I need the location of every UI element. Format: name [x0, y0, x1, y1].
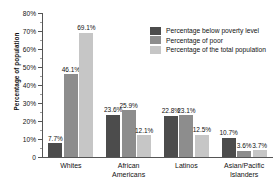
y-tick-40 — [38, 85, 42, 86]
bar[interactable] — [253, 150, 267, 157]
y-tick-10 — [38, 139, 42, 140]
bar[interactable] — [164, 116, 178, 157]
bar-value-label: 10.7% — [219, 129, 237, 136]
y-tick-minor — [40, 94, 42, 95]
bar[interactable] — [48, 143, 62, 157]
bar-value-label: 7.7% — [48, 135, 63, 142]
y-tick-minor — [40, 58, 42, 59]
y-tick-0 — [38, 157, 42, 158]
y-tick-minor — [40, 112, 42, 113]
bar-value-label: 25.9% — [119, 102, 137, 109]
bar-value-label: 69.1% — [77, 24, 95, 31]
bar[interactable] — [179, 115, 193, 157]
y-tick-minor — [40, 148, 42, 149]
bar[interactable] — [195, 135, 209, 158]
y-tick-80 — [38, 13, 42, 14]
bar-group: 23.6%25.9%12.1% — [106, 13, 151, 157]
y-tick-60 — [38, 49, 42, 50]
y-tick-label-40: 40% — [23, 82, 36, 89]
bar-value-label: 12.5% — [193, 126, 211, 133]
x-category-label: Asian/Pacific Islanders — [208, 162, 279, 179]
legend-item[interactable]: Percentage of poor — [150, 36, 266, 46]
bar-value-label: 23.1% — [177, 107, 195, 114]
legend-label: Percentage of poor — [166, 37, 223, 44]
y-tick-30 — [38, 103, 42, 104]
bar-value-label: 3.6% — [237, 142, 252, 149]
legend-label: Percentage of the total population — [166, 46, 266, 53]
y-tick-label-10: 10% — [23, 136, 36, 143]
bar[interactable] — [79, 33, 93, 157]
legend-swatch-icon — [150, 27, 161, 35]
y-tick-50 — [38, 67, 42, 68]
x-axis-line — [42, 157, 273, 158]
y-tick-label-30: 30% — [23, 100, 36, 107]
y-tick-label-20: 20% — [23, 118, 36, 125]
bar[interactable] — [222, 138, 236, 157]
legend-item[interactable]: Percentage of the total population — [150, 45, 266, 55]
y-tick-label-0: 0 — [32, 154, 36, 161]
y-axis-line — [42, 13, 43, 157]
y-tick-70 — [38, 31, 42, 32]
legend-item[interactable]: Percentage below poverty level — [150, 26, 266, 36]
y-tick-minor — [40, 40, 42, 41]
y-tick-minor — [40, 22, 42, 23]
y-tick-20 — [38, 121, 42, 122]
y-tick-label-70: 70% — [23, 28, 36, 35]
y-tick-label-60: 60% — [23, 46, 36, 53]
bar[interactable] — [64, 74, 78, 157]
y-tick-minor — [40, 130, 42, 131]
legend-swatch-icon — [150, 36, 161, 44]
y-axis-title: Percentage of population — [13, 24, 20, 120]
bar[interactable] — [237, 151, 251, 157]
y-tick-label-50: 50% — [23, 64, 36, 71]
legend-swatch-icon — [150, 46, 161, 54]
legend-label: Percentage below poverty level — [166, 27, 259, 34]
y-tick-label-80: 80% — [23, 10, 36, 17]
bar-value-label: 12.1% — [135, 127, 153, 134]
bar-chart: Percentage of population 010%20%30%40%50… — [0, 0, 279, 187]
bar-group: 7.7%46.1%69.1% — [48, 13, 93, 157]
chart-legend: Percentage below poverty levelPercentage… — [150, 26, 266, 55]
bar-value-label: 46.1% — [62, 66, 80, 73]
bar-value-label: 3.7% — [252, 142, 267, 149]
bar[interactable] — [122, 110, 136, 157]
bar[interactable] — [106, 115, 120, 157]
y-tick-minor — [40, 76, 42, 77]
bar[interactable] — [137, 135, 151, 157]
